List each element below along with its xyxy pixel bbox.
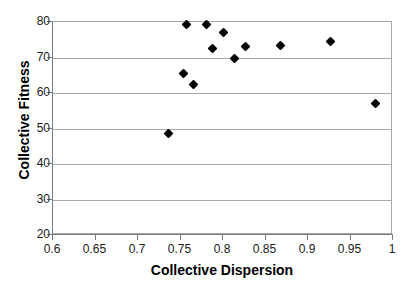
plot-area [52,21,392,234]
x-tick-mark [137,235,138,240]
scan-artifact [0,0,408,5]
x-tick-label: 1 [362,243,408,256]
data-point [241,42,251,52]
data-point [164,129,174,139]
gridline [53,58,391,59]
data-point [326,37,336,47]
data-point [179,68,189,78]
x-tick-mark [95,235,96,240]
y-axis-title: Collective Fitness [16,10,32,230]
x-tick-mark [222,235,223,240]
x-tick-mark [350,235,351,240]
gridline [53,200,391,201]
x-tick-mark [52,235,53,240]
y-axis-line [52,21,53,235]
gridline [53,164,391,165]
gridline [53,129,391,130]
data-point [188,80,198,90]
data-point [370,99,380,109]
x-axis-title: Collective Dispersion [52,262,392,278]
data-point [229,53,239,63]
data-point [276,40,286,50]
data-point [218,28,228,38]
x-tick-mark [265,235,266,240]
scatter-chart: 80706050403020 0.60.650.70.750.80.850.90… [0,0,408,293]
x-tick-mark [307,235,308,240]
data-point [181,20,191,30]
x-tick-mark [392,235,393,240]
data-point [202,20,212,30]
x-tick-mark [180,235,181,240]
gridline [53,93,391,94]
data-point [208,44,218,54]
